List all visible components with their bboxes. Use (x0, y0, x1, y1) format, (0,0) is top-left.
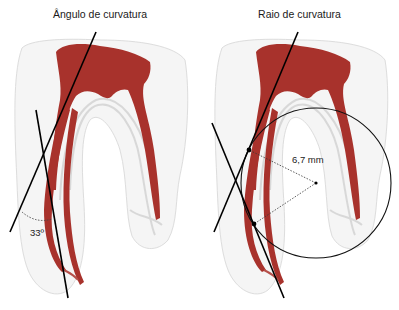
circle-center-point (314, 181, 317, 184)
tooth-figure-angle: 33º (0, 0, 200, 310)
tangent-point-lower (252, 222, 257, 227)
radius-of-curvature-panel: Raio de curvatura 6,7 mm (200, 0, 399, 310)
tooth-figure-radius: 6,7 mm (200, 0, 399, 310)
angle-label: 33º (30, 227, 45, 238)
radius-label: 6,7 mm (292, 154, 324, 165)
angle-of-curvature-panel: Ângulo de curvatura 33º (0, 0, 200, 310)
tangent-point-upper (247, 148, 252, 153)
